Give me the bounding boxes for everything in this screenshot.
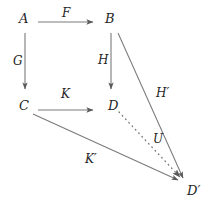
edge-label-H-prime: H′	[156, 87, 169, 99]
edge-label-H: H	[98, 54, 108, 66]
node-label-D-prime: D′	[187, 184, 200, 197]
node-label-D: D	[108, 99, 118, 112]
edge-label-K-prime: K′	[85, 153, 97, 165]
edge-label-F: F	[62, 7, 70, 19]
edge-H-prime	[118, 33, 183, 178]
edge-K-prime	[33, 114, 178, 180]
node-label-B: B	[105, 12, 115, 25]
commutative-diagram: A B C D D′ F G H K H′ K′ U	[0, 0, 214, 209]
node-label-C: C	[19, 99, 29, 112]
diagram-canvas	[0, 0, 214, 209]
edge-label-K: K	[61, 88, 70, 100]
edge-label-G: G	[13, 55, 23, 67]
edge-label-U: U	[153, 133, 163, 145]
node-label-A: A	[19, 12, 28, 25]
